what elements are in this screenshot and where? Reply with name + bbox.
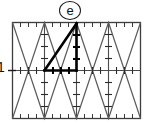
waveform-plot xyxy=(0,0,146,125)
figure-panel: e 1 xyxy=(0,0,146,125)
